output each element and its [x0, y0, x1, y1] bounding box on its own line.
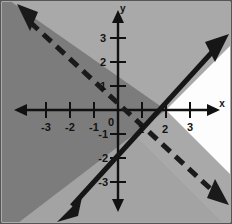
graph-figure: -3 -2 -1 1 2 3 3 2 1 -1 -2 -3 0 x y [0, 0, 232, 224]
origin-label: 0 [108, 116, 114, 128]
y-tick-label-neg2: -2 [98, 152, 108, 164]
x-tick-label-pos3: 3 [187, 121, 193, 133]
y-tick-label-neg1: -1 [98, 128, 108, 140]
y-tick-label-pos2: 2 [100, 56, 106, 68]
x-tick-label-neg3: -3 [41, 121, 51, 133]
coordinate-plane-svg: -3 -2 -1 1 2 3 3 2 1 -1 -2 -3 0 x y [0, 0, 232, 224]
y-tick-label-pos1: 1 [100, 80, 106, 92]
y-tick-label-pos3: 3 [100, 32, 106, 44]
x-axis-label: x [219, 98, 225, 109]
x-tick-label-pos2: 2 [162, 123, 168, 135]
y-axis-label: y [120, 3, 126, 14]
x-tick-label-pos1: 1 [138, 123, 144, 135]
y-tick-label-neg3: -3 [98, 176, 108, 188]
region-shading-group [0, 0, 232, 224]
x-tick-label-neg2: -2 [65, 121, 75, 133]
